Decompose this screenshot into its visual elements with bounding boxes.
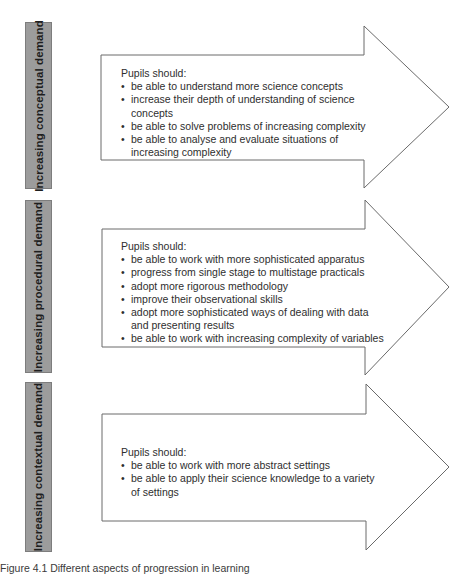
list-item: be able to apply their science knowledge… xyxy=(121,472,379,498)
content-contextual: Pupils should: be able to work with more… xyxy=(121,446,366,499)
list-contextual: be able to work with more abstract setti… xyxy=(121,459,366,499)
heading-contextual: Pupils should: xyxy=(121,446,366,459)
list-item: be able to work with more abstract setti… xyxy=(121,459,366,472)
figure-caption: Figure 4.1 Different aspects of progress… xyxy=(0,562,250,574)
